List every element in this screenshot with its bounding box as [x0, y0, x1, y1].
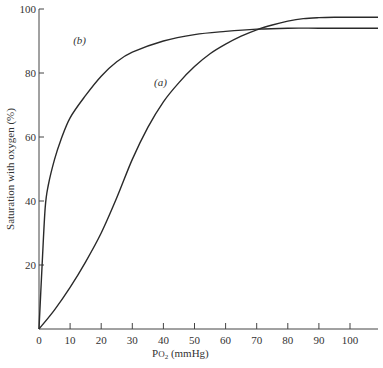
x-tick-label: 40 [158, 334, 170, 346]
x-tick-label: 50 [189, 334, 201, 346]
x-tick-label: 80 [282, 334, 294, 346]
curve-a [39, 17, 378, 329]
x-tick-label: 0 [36, 334, 42, 346]
x-tick-label: 60 [220, 334, 232, 346]
axes [39, 9, 378, 329]
curve-label: (a) [154, 76, 167, 89]
x-tick-label: 100 [342, 334, 359, 346]
y-tick-label: 80 [25, 67, 37, 79]
y-tick-label: 40 [25, 195, 37, 207]
curves [39, 17, 378, 329]
y-axis-title: Saturation with oxygen (%) [4, 108, 17, 230]
y-tick-label: 60 [25, 131, 37, 143]
x-axis-title: PO2 (mmHg) [152, 347, 209, 361]
x-tick-label: 20 [96, 334, 108, 346]
curve-labels: (a)(b) [73, 34, 167, 89]
x-tick-label: 10 [65, 334, 77, 346]
x-tick-label: 70 [251, 334, 263, 346]
y-tick-label: 100 [20, 3, 37, 15]
curve-label: (b) [73, 34, 86, 47]
y-tick-label: 20 [25, 259, 37, 271]
curve-b [39, 28, 378, 329]
y-ticks: 20406080100 [20, 3, 45, 271]
x-tick-label: 90 [313, 334, 325, 346]
x-tick-label: 30 [127, 334, 139, 346]
oxygen-dissociation-chart: 0102030405060708090100 20406080100 (a)(b… [0, 0, 383, 368]
x-ticks: 0102030405060708090100 [36, 323, 359, 346]
